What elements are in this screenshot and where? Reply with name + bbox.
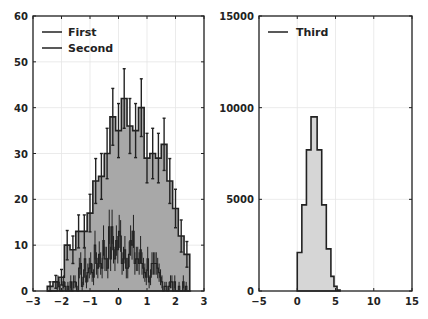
y-tick-label: 5000: [226, 194, 254, 205]
x-tick-label: 15: [405, 296, 419, 307]
left-plot: −3−2−101230102030405060 First Second: [14, 11, 207, 307]
y-tick-label: 50: [14, 57, 28, 68]
left-legend: First Second: [42, 26, 113, 55]
x-tick-label: 2: [172, 296, 179, 307]
third-step-area: [297, 117, 340, 291]
y-tick-label: 15000: [219, 11, 254, 22]
legend-third-label: Third: [296, 26, 328, 39]
right-legend: Third: [268, 26, 328, 39]
y-tick-label: 20: [14, 194, 28, 205]
x-tick-label: −1: [82, 296, 97, 307]
legend-second-label: Second: [68, 42, 113, 55]
x-tick-label: 0: [294, 296, 301, 307]
y-tick-label: 0: [247, 286, 254, 297]
x-tick-label: 3: [201, 296, 208, 307]
x-tick-label: 1: [144, 296, 151, 307]
x-tick-label: 10: [367, 296, 381, 307]
y-tick-label: 60: [14, 11, 28, 22]
x-tick-label: 0: [115, 296, 122, 307]
y-tick-label: 10: [14, 240, 28, 251]
x-tick-label: 5: [332, 296, 339, 307]
y-tick-label: 40: [14, 103, 28, 114]
x-tick-label: −5: [251, 296, 266, 307]
y-tick-label: 0: [21, 286, 28, 297]
y-tick-label: 30: [14, 149, 28, 160]
legend-first-label: First: [68, 26, 97, 39]
chart-canvas: −3−2−101230102030405060 First Second −50…: [0, 0, 428, 319]
third-histogram: [297, 117, 340, 291]
right-plot: −5051015050001000015000 Third: [219, 11, 419, 307]
y-tick-label: 10000: [219, 103, 254, 114]
x-tick-label: −2: [54, 296, 69, 307]
x-tick-label: −3: [25, 296, 40, 307]
right-grid: [259, 16, 412, 291]
